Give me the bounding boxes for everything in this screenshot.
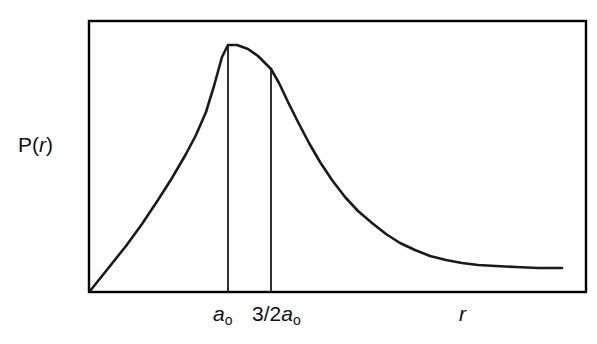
y-axis-label-suffix: ) — [46, 133, 53, 156]
x-tick-label-a0: ao — [213, 303, 232, 324]
y-axis-label-variable: r — [39, 133, 46, 156]
x-tick-label-a0-base: a — [213, 302, 225, 325]
x-tick-label-three-halves-subscript: o — [293, 312, 301, 328]
x-tick-label-three-halves-fraction: 3/2 — [252, 302, 281, 325]
x-tick-label-a0-subscript: o — [225, 312, 233, 328]
plot-frame — [89, 21, 586, 292]
y-axis-label-prefix: P( — [18, 133, 39, 156]
probability-curve — [90, 45, 562, 291]
figure-container: P(r) ao 3/2ao r — [0, 0, 597, 344]
x-tick-label-three-halves-base: a — [281, 302, 293, 325]
plot-canvas — [0, 0, 597, 344]
y-axis-label: P(r) — [18, 134, 53, 155]
x-tick-label-three-halves-a0: 3/2ao — [252, 303, 301, 324]
x-axis-label: r — [459, 303, 466, 324]
